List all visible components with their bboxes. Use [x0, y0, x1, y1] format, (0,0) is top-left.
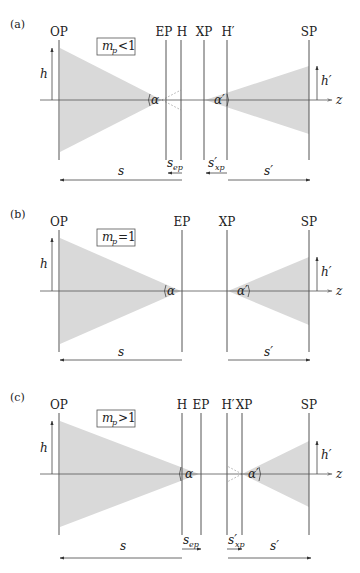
angle-object-label: α [151, 93, 159, 107]
plane-label: EP [156, 25, 173, 39]
plane-label: H′ [221, 398, 234, 412]
s-xp-subscript: xp [215, 163, 225, 172]
angle-object-label: α [167, 284, 175, 298]
virtual-ray [162, 90, 181, 100]
s-label: s [118, 164, 124, 178]
s-prime-label: s′ [270, 539, 279, 553]
plane-label: XP [196, 25, 213, 39]
object-height-label: h [40, 441, 48, 455]
angle-image-label: α′ [214, 93, 225, 107]
axis-label: z [335, 284, 343, 298]
plane-label: XP [236, 398, 253, 412]
condition-relation: <1 [118, 39, 136, 53]
condition-relation: =1 [118, 230, 136, 244]
plane-label: SP [301, 25, 317, 39]
image-height-label: h′ [321, 74, 332, 88]
plane-label: EP [193, 398, 210, 412]
angle-image-label: α′ [237, 284, 248, 298]
plane-label: OP [50, 398, 68, 412]
condition-subscript: p [112, 418, 117, 427]
s-ep-subscript: ep [189, 540, 199, 549]
panel-tag: (b) [10, 208, 26, 221]
panel-b: (b) z OP EP XP SP m p =1 h h′ α α′ s s′ [10, 208, 343, 360]
plane-label: SP [301, 215, 317, 229]
panel-c: (c) z OP H EP H′ XP SP m p >1 h h′ α α′ … [10, 391, 343, 558]
axis-label: z [335, 93, 343, 107]
axis-label: z [335, 467, 343, 481]
virtual-ray [227, 466, 242, 474]
plane-label: H [177, 25, 187, 39]
angle-image-label: α′ [248, 467, 259, 481]
plane-label: SP [301, 398, 317, 412]
angle-object-label: α [185, 467, 193, 481]
optical-pupil-diagram: (a) z OP EP H XP H′ SP m p <1 h h′ α [0, 0, 360, 573]
plane-label: OP [50, 215, 68, 229]
object-height-label: h [40, 67, 48, 81]
panel-tag: (c) [10, 391, 25, 404]
panel-tag: (a) [10, 18, 25, 31]
condition-subscript: p [112, 237, 117, 246]
virtual-ray [227, 474, 242, 482]
s-prime-label: s′ [264, 164, 273, 178]
s-label: s [120, 539, 126, 553]
condition-relation: >1 [118, 411, 136, 425]
image-height-label: h′ [321, 448, 332, 462]
plane-label: H′ [221, 25, 234, 39]
condition-subscript: p [112, 46, 117, 55]
s-prime-label: s′ [264, 345, 273, 359]
plane-label: OP [50, 25, 68, 39]
object-height-label: h [40, 257, 48, 271]
s-xp-subscript: xp [235, 540, 245, 549]
plane-label: H [177, 398, 187, 412]
plane-label: XP [219, 215, 236, 229]
image-height-label: h′ [321, 265, 332, 279]
panel-a: (a) z OP EP H XP H′ SP m p <1 h h′ α [10, 18, 343, 180]
s-ep-subscript: ep [173, 163, 183, 172]
virtual-ray [162, 100, 181, 110]
s-label: s [118, 345, 124, 359]
plane-label: EP [174, 215, 191, 229]
